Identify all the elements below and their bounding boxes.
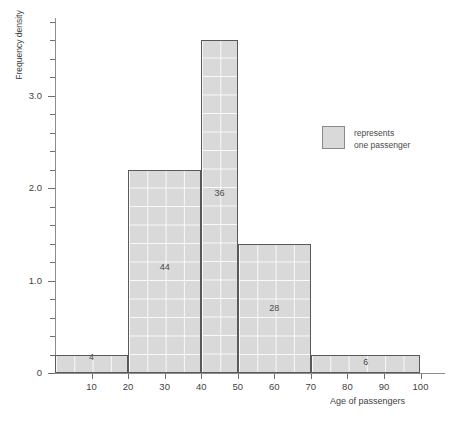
x-tick-label-40: 40	[181, 381, 221, 392]
x-tick-80	[347, 374, 348, 379]
y-tick-1.4	[50, 244, 55, 245]
histogram-chart: Frequency density 01.02.03.0 10203040506…	[0, 0, 455, 424]
x-tick-90	[384, 374, 385, 379]
y-tick-label-0: 0	[2, 367, 42, 378]
x-tick-40	[201, 374, 202, 379]
legend-swatch-icon	[322, 126, 345, 149]
y-tick-3.6	[50, 40, 55, 41]
legend: represents one passenger	[322, 126, 410, 151]
y-tick-3	[48, 96, 55, 97]
y-axis-line	[55, 18, 56, 373]
x-tick-100	[421, 374, 422, 379]
y-tick-0.8	[50, 299, 55, 300]
x-tick-label-70: 70	[291, 381, 331, 392]
y-tick-1.8	[50, 207, 55, 208]
y-axis-title: Frequency density	[14, 0, 24, 100]
x-axis-line	[55, 373, 445, 374]
bar-label-70-100: 6	[346, 357, 386, 367]
y-tick-1.2	[50, 262, 55, 263]
x-tick-label-100: 100	[401, 381, 441, 392]
y-tick-0.4	[50, 336, 55, 337]
y-tick-2	[48, 188, 55, 189]
y-tick-0	[48, 373, 55, 374]
x-tick-label-10: 10	[72, 381, 112, 392]
bar-label-20-40: 44	[145, 262, 185, 272]
y-tick-label-2.0: 2.0	[2, 182, 42, 193]
y-tick-2.6	[50, 133, 55, 134]
bar-label-0-20: 4	[72, 352, 112, 362]
legend-label: represents one passenger	[354, 126, 410, 151]
y-tick-2.4	[50, 151, 55, 152]
x-tick-10	[92, 374, 93, 379]
x-tick-60	[274, 374, 275, 379]
x-tick-label-90: 90	[364, 381, 404, 392]
bar-label-40-50: 36	[199, 188, 239, 198]
x-tick-label-60: 60	[254, 381, 294, 392]
y-tick-1.6	[50, 225, 55, 226]
x-tick-50	[238, 374, 239, 379]
y-tick-3.2	[50, 77, 55, 78]
y-tick-0.6	[50, 318, 55, 319]
x-tick-70	[311, 374, 312, 379]
y-tick-label-3.0: 3.0	[2, 90, 42, 101]
x-tick-label-30: 30	[145, 381, 185, 392]
bar-label-50-70: 28	[254, 303, 294, 313]
y-tick-label-1.0: 1.0	[2, 275, 42, 286]
y-tick-3.4	[50, 59, 55, 60]
y-tick-3.8	[50, 22, 55, 23]
x-tick-30	[165, 374, 166, 379]
y-tick-2.2	[50, 170, 55, 171]
x-tick-label-80: 80	[327, 381, 367, 392]
x-tick-label-20: 20	[108, 381, 148, 392]
x-tick-label-50: 50	[218, 381, 258, 392]
x-axis-title: Age of passengers	[330, 396, 405, 406]
y-tick-2.8	[50, 114, 55, 115]
y-tick-1	[48, 281, 55, 282]
bar-40-50	[201, 40, 238, 373]
x-tick-20	[128, 374, 129, 379]
